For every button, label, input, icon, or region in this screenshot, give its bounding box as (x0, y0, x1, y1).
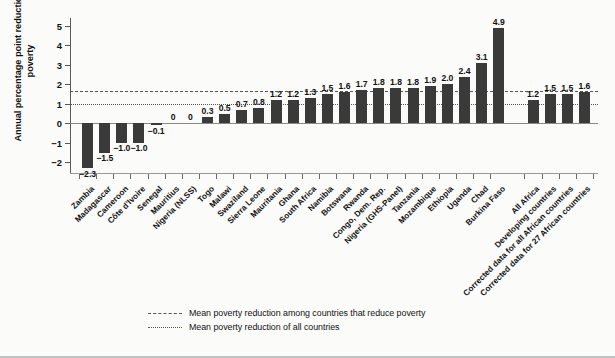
x-tick (79, 174, 80, 179)
y-tick-label: −2 (51, 157, 62, 168)
reference-line (70, 104, 598, 105)
x-tick (285, 174, 286, 179)
bar (236, 110, 247, 124)
chart-figure: Annual percentage point reduction in pov… (0, 0, 615, 358)
x-tick (593, 174, 594, 179)
x-tick (422, 174, 423, 179)
y-tick (65, 162, 70, 163)
bar (408, 88, 419, 123)
y-tick-label: 5 (57, 20, 62, 31)
legend-item: Mean poverty reduction among countries t… (148, 306, 425, 320)
legend-item: Mean poverty reduction of all countries (148, 320, 425, 334)
x-tick (542, 174, 543, 179)
x-tick (439, 174, 440, 179)
bar (390, 88, 401, 123)
x-tick (250, 174, 251, 179)
bar (305, 98, 316, 123)
bar (116, 123, 127, 143)
dashed-line-icon (148, 313, 182, 314)
x-tick (524, 174, 525, 179)
x-tick (456, 174, 457, 179)
bar (459, 77, 470, 124)
x-tick (353, 174, 354, 179)
x-tick (96, 174, 97, 179)
bar (271, 100, 282, 123)
plot-area: −2−1012345 −2.3−1.5−1.0−1.0−0.1000.30.50… (70, 18, 598, 174)
y-tick-label: 0 (57, 118, 62, 129)
y-tick (65, 26, 70, 27)
y-tick (65, 84, 70, 85)
y-tick-label: 3 (57, 59, 62, 70)
bar-value-label: 2.4 (450, 66, 480, 76)
zero-baseline (70, 123, 598, 124)
bar-value-label: 1.6 (569, 81, 599, 91)
bar (219, 114, 230, 124)
x-tick (473, 174, 474, 179)
x-tick (165, 174, 166, 179)
chart-legend: Mean poverty reduction among countries t… (148, 306, 425, 334)
x-tick (490, 174, 491, 179)
x-tick (267, 174, 268, 179)
x-tick (370, 174, 371, 179)
bar (425, 86, 436, 123)
x-tick (576, 174, 577, 179)
bar (373, 88, 384, 123)
bar-value-label: −1.5 (90, 153, 120, 163)
x-tick (199, 174, 200, 179)
dotted-line-icon (148, 327, 182, 328)
x-tick (148, 174, 149, 179)
bar (579, 92, 590, 123)
x-tick (113, 174, 114, 179)
x-tick (182, 174, 183, 179)
bar-value-label: −0.1 (141, 126, 171, 136)
bar-value-label: −1.0 (124, 143, 154, 153)
y-tick (65, 143, 70, 144)
x-tick (130, 174, 131, 179)
x-tick (302, 174, 303, 179)
bar (356, 90, 367, 123)
bar (562, 94, 573, 123)
x-tick (233, 174, 234, 179)
y-tick (65, 45, 70, 46)
x-tick (559, 174, 560, 179)
y-axis-line (70, 18, 71, 174)
x-axis-line (70, 173, 598, 174)
y-tick-label: 2 (57, 79, 62, 90)
y-tick (65, 65, 70, 66)
y-tick-label: −1 (51, 137, 62, 148)
bar-value-label: −2.3 (73, 169, 103, 179)
x-tick (336, 174, 337, 179)
bar (339, 92, 350, 123)
x-tick (216, 174, 217, 179)
legend-label: Mean poverty reduction of all countries (189, 322, 340, 332)
bar (528, 100, 539, 123)
bar (493, 28, 504, 124)
y-axis-title: Annual percentage point reduction in pov… (13, 0, 43, 146)
x-tick (319, 174, 320, 179)
bar (476, 63, 487, 123)
bar (545, 94, 556, 123)
bar (253, 108, 264, 124)
x-tick (405, 174, 406, 179)
bar (202, 117, 213, 123)
bar (322, 94, 333, 123)
x-tick (387, 174, 388, 179)
bar (288, 100, 299, 123)
y-tick-label: 4 (57, 40, 62, 51)
y-tick-label: 1 (57, 98, 62, 109)
legend-label: Mean poverty reduction among countries t… (189, 308, 425, 318)
bar (442, 84, 453, 123)
bar-value-label: 3.1 (467, 52, 497, 62)
bar-value-label: 4.9 (484, 17, 514, 27)
